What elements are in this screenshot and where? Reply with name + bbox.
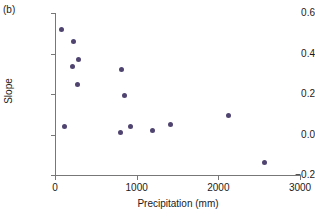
data-point [168,122,173,127]
x-tick-mark [300,176,301,180]
data-point [226,113,231,118]
x-tick-mark [55,176,56,180]
x-axis-title: Precipitation (mm) [55,198,301,210]
scatter-plot-figure: (b) −0.20.00.20.40.6 0100020003000 Preci… [0,0,315,216]
panel-label: (b) [3,4,15,16]
x-tick-label: 3000 [270,182,315,193]
data-point [75,82,80,87]
data-point [150,128,155,133]
x-tick-label: 0 [25,182,85,193]
data-point [128,124,133,129]
y-axis-title: Slope [3,61,15,121]
x-tick-label: 2000 [188,182,248,193]
data-point [70,64,75,69]
x-tick-mark [137,176,138,180]
data-point [122,93,127,98]
plot-area [55,13,300,175]
x-axis-line [55,175,301,176]
x-tick-label: 1000 [107,182,167,193]
x-tick-mark [218,176,219,180]
